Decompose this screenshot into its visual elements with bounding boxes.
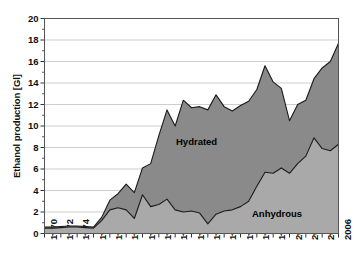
- series-label-anhydrous: Anhydrous: [252, 208, 302, 219]
- series-label-hydrated: Hydrated: [176, 136, 217, 147]
- chart-figure: Ethanol production [Gl] 0246810121416182…: [0, 0, 355, 276]
